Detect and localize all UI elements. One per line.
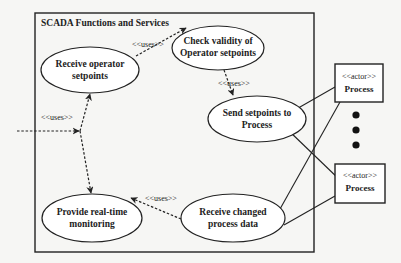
use-case-send-setpoints: Send setpoints to Process — [208, 96, 306, 142]
use-case-receive-operator-setpoints: Receive operator setpoints — [41, 47, 139, 93]
svg-text:Operator setpoints: Operator setpoints — [180, 48, 256, 58]
uses-label: <<uses>> — [132, 40, 164, 49]
svg-text:Receive operator: Receive operator — [56, 59, 126, 69]
svg-text:Process: Process — [242, 120, 273, 130]
actor-process-1: <<actor>> Process — [335, 64, 383, 102]
ellipsis-dots — [352, 111, 359, 148]
uses-label: <<uses>> — [218, 79, 250, 88]
svg-text:Send setpoints to: Send setpoints to — [223, 108, 292, 118]
uses-junction-to-receive — [80, 94, 90, 131]
actor-name: Process — [346, 183, 375, 193]
uses-label: <<uses>> — [41, 113, 73, 122]
svg-text:process data: process data — [208, 219, 258, 229]
use-case-provide-monitoring: Provide real-time monitoring — [42, 194, 142, 242]
dot-icon — [352, 126, 359, 133]
svg-text:monitoring: monitoring — [69, 219, 115, 229]
actor-stereotype: <<actor>> — [342, 72, 377, 81]
dot-icon — [352, 141, 359, 148]
uses-label: <<uses>> — [145, 194, 177, 203]
uses-junction-to-provide — [80, 131, 91, 193]
use-case-diagram: SCADA Functions and Services <<uses>> <<… — [0, 0, 401, 263]
svg-text:Provide real-time: Provide real-time — [57, 207, 128, 217]
actor-name: Process — [345, 84, 374, 94]
svg-text:Check validity of: Check validity of — [183, 36, 253, 46]
dot-icon — [352, 111, 359, 118]
use-case-check-validity: Check validity of Operator setpoints — [172, 26, 264, 70]
svg-text:setpoints: setpoints — [72, 71, 108, 81]
system-boundary-title: SCADA Functions and Services — [41, 18, 169, 28]
use-case-receive-changed-data: Receive changed process data — [181, 194, 285, 242]
svg-text:Receive changed: Receive changed — [199, 207, 267, 217]
actor-stereotype: <<actor>> — [343, 171, 378, 180]
assoc-changed-process2 — [284, 196, 335, 225]
actor-process-2: <<actor>> Process — [335, 164, 385, 203]
